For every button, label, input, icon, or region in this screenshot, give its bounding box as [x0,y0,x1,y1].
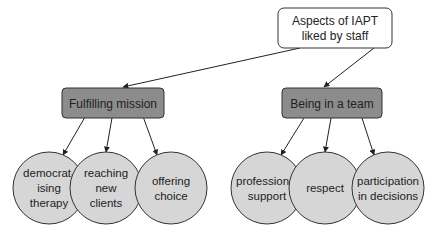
branch-label: Fulfilling mission [69,97,157,111]
edge-branch-to-leaf [144,118,157,155]
root-label: Aspects of IAPT [292,14,379,28]
edge-branch-to-leaf [63,118,84,155]
edge-branch-to-leaf [325,118,331,152]
edge-branch-to-leaf [362,118,374,155]
leaf-node [352,152,424,224]
edge-branch-to-leaf [281,118,304,155]
leaf-label: democrat- [23,167,75,179]
leaf-node [135,152,207,224]
aspects-diagram: Aspects of IAPTliked by staffFulfilling … [0,0,438,236]
branch-label: Being in a team [290,97,373,111]
leaf-label: therapy [30,197,69,209]
edge-root-to-branch [123,48,300,87]
leaf-label: offering [152,175,190,187]
edge-root-to-branch [324,48,374,87]
leaf-label: support [248,190,287,202]
leaf-label: new [95,182,117,194]
root-label: liked by staff [302,29,369,43]
leaf-label: in decisions [358,190,418,202]
leaf-label: reaching [84,167,128,179]
leaf-label: choice [154,190,187,202]
leaf-label: participation [357,175,419,187]
leaf-label: ising [37,182,61,194]
leaf-label: clients [90,197,123,209]
edge-branch-to-leaf [106,118,112,152]
leaf-label: respect [306,182,345,194]
